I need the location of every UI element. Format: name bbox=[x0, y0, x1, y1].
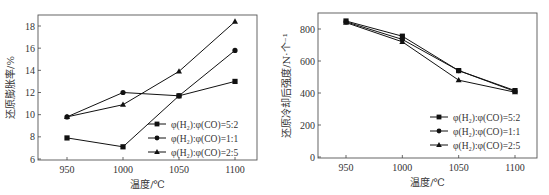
legend: φ(H₂):φ(CO)=5:2φ(H₂):φ(CO)=1:1φ(H₂):φ(CO… bbox=[148, 120, 238, 159]
legend-label: φ(H₂):φ(CO)=1:1 bbox=[453, 127, 520, 138]
legend-item: φ(H₂):φ(CO)=2:5 bbox=[148, 148, 238, 159]
expansion-chart: 681012141618950100010501100温度/℃还原膨胀率/%φ(… bbox=[4, 15, 257, 190]
x-tick-label: 1050 bbox=[169, 164, 189, 175]
legend-item: φ(H₂):φ(CO)=2:5 bbox=[430, 141, 520, 152]
legend-label: φ(H₂):φ(CO)=5:2 bbox=[453, 113, 520, 124]
triangle-marker bbox=[232, 18, 238, 23]
x-tick-label: 950 bbox=[339, 162, 354, 173]
triangle-marker bbox=[120, 101, 126, 106]
figure-canvas: 681012141618950100010501100温度/℃还原膨胀率/%φ(… bbox=[0, 0, 549, 195]
circle-marker bbox=[437, 129, 442, 134]
x-tick-label: 1100 bbox=[225, 164, 245, 175]
y-tick-label: 14 bbox=[25, 65, 35, 76]
y-tick-label: 6 bbox=[30, 154, 35, 165]
circle-marker bbox=[155, 136, 160, 141]
square-marker bbox=[155, 122, 160, 127]
legend-label: φ(H₂):φ(CO)=5:2 bbox=[171, 120, 238, 131]
legend-item: φ(H₂):φ(CO)=1:1 bbox=[430, 127, 520, 138]
x-tick-label: 950 bbox=[60, 164, 75, 175]
x-axis-label: 温度/℃ bbox=[410, 176, 445, 188]
y-tick-label: 18 bbox=[25, 21, 35, 32]
x-tick-label: 1000 bbox=[113, 164, 133, 175]
circle-marker bbox=[120, 90, 125, 95]
circle-marker bbox=[176, 93, 181, 98]
legend-label: φ(H₂):φ(CO)=2:5 bbox=[453, 141, 520, 152]
triangle-marker bbox=[456, 77, 462, 82]
legend-item: φ(H₂):φ(CO)=1:1 bbox=[148, 134, 238, 145]
x-tick-label: 1050 bbox=[449, 162, 469, 173]
square-marker bbox=[64, 135, 69, 140]
circle-marker bbox=[456, 68, 461, 73]
circle-marker bbox=[232, 48, 237, 53]
legend-item: φ(H₂):φ(CO)=5:2 bbox=[430, 113, 520, 124]
y-axis-label: 还原冷却后强度/N·个⁻¹ bbox=[280, 33, 292, 138]
y-tick-label: 8 bbox=[30, 131, 35, 142]
legend-item: φ(H₂):φ(CO)=5:2 bbox=[148, 120, 238, 131]
triangle-marker bbox=[436, 142, 442, 147]
y-tick-label: 0 bbox=[310, 152, 315, 163]
y-tick-label: 600 bbox=[300, 56, 315, 67]
y-tick-label: 12 bbox=[25, 87, 35, 98]
legend-label: φ(H₂):φ(CO)=1:1 bbox=[171, 134, 238, 145]
square-marker bbox=[232, 79, 237, 84]
square-marker bbox=[120, 144, 125, 149]
legend-label: φ(H₂):φ(CO)=2:5 bbox=[171, 148, 238, 159]
strength-chart: 0200400600800950100010501100温度/℃还原冷却后强度/… bbox=[280, 13, 537, 188]
y-tick-label: 10 bbox=[25, 109, 35, 120]
x-tick-label: 1100 bbox=[505, 162, 525, 173]
y-axis-label: 还原膨胀率/% bbox=[4, 56, 16, 119]
series-circle bbox=[64, 48, 237, 120]
series-line bbox=[67, 22, 235, 117]
legend: φ(H₂):φ(CO)=5:2φ(H₂):φ(CO)=1:1φ(H₂):φ(CO… bbox=[430, 113, 520, 152]
series-line bbox=[67, 50, 235, 117]
y-tick-label: 400 bbox=[300, 88, 315, 99]
y-tick-label: 16 bbox=[25, 43, 35, 54]
y-tick-label: 800 bbox=[300, 24, 315, 35]
y-tick-label: 200 bbox=[300, 120, 315, 131]
triangle-marker bbox=[154, 149, 160, 154]
square-marker bbox=[437, 115, 442, 120]
series-line bbox=[346, 22, 515, 92]
x-axis-label: 温度/℃ bbox=[130, 178, 165, 190]
x-tick-label: 1000 bbox=[392, 162, 412, 173]
